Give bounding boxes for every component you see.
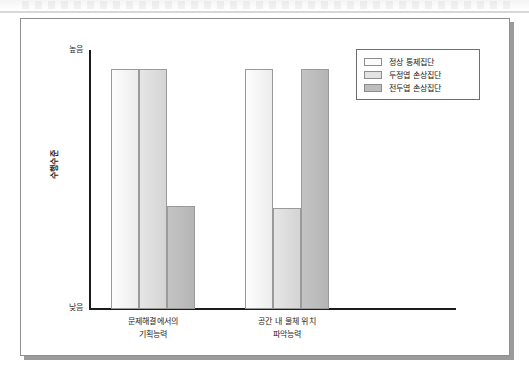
bar-g1-s0 xyxy=(111,69,139,309)
page-scan-artifact xyxy=(0,0,529,11)
x-category-label-1-line-2: 기획능력 xyxy=(78,328,228,341)
plot-area: 높음 낮음 수행수준 문제해결에서의 기획능력 공간 내 물체 위치 파악능력 xyxy=(21,19,511,357)
bar-g2-s2 xyxy=(301,69,329,309)
bar-g2-s1 xyxy=(273,208,301,309)
legend-item-1: 두정엽 손상집단 xyxy=(364,68,472,81)
legend-label-0: 정상 통제집단 xyxy=(389,56,434,67)
legend-item-0: 정상 통제집단 xyxy=(364,55,472,68)
legend-swatch-icon-1 xyxy=(364,71,382,79)
x-category-label-2-line-2: 파악능력 xyxy=(212,328,362,341)
screenshot-root: 높음 낮음 수행수준 문제해결에서의 기획능력 공간 내 물체 위치 파악능력 xyxy=(0,0,529,378)
legend-item-2: 전두엽 손상집단 xyxy=(364,81,472,94)
legend-swatch-icon-2 xyxy=(364,84,382,92)
x-category-label-2: 공간 내 물체 위치 파악능력 xyxy=(212,315,362,341)
bar-g2-s0 xyxy=(245,69,273,309)
legend-label-1: 두정엽 손상집단 xyxy=(389,69,441,80)
chart-legend: 정상 통제집단 두정엽 손상집단 전두엽 손상집단 xyxy=(356,49,480,100)
bar-g1-s1 xyxy=(139,69,167,309)
figure-frame: 높음 낮음 수행수준 문제해결에서의 기획능력 공간 내 물체 위치 파악능력 xyxy=(20,18,510,356)
legend-swatch-icon-0 xyxy=(364,58,382,66)
page-header-rule xyxy=(0,11,529,13)
x-category-label-1-line-1: 문제해결에서의 xyxy=(78,315,228,328)
x-category-label-2-line-1: 공간 내 물체 위치 xyxy=(212,315,362,328)
legend-label-2: 전두엽 손상집단 xyxy=(389,82,441,93)
bar-g1-s2 xyxy=(167,206,195,309)
x-category-label-1: 문제해결에서의 기획능력 xyxy=(78,315,228,341)
scan-ghost-text xyxy=(22,1,511,9)
